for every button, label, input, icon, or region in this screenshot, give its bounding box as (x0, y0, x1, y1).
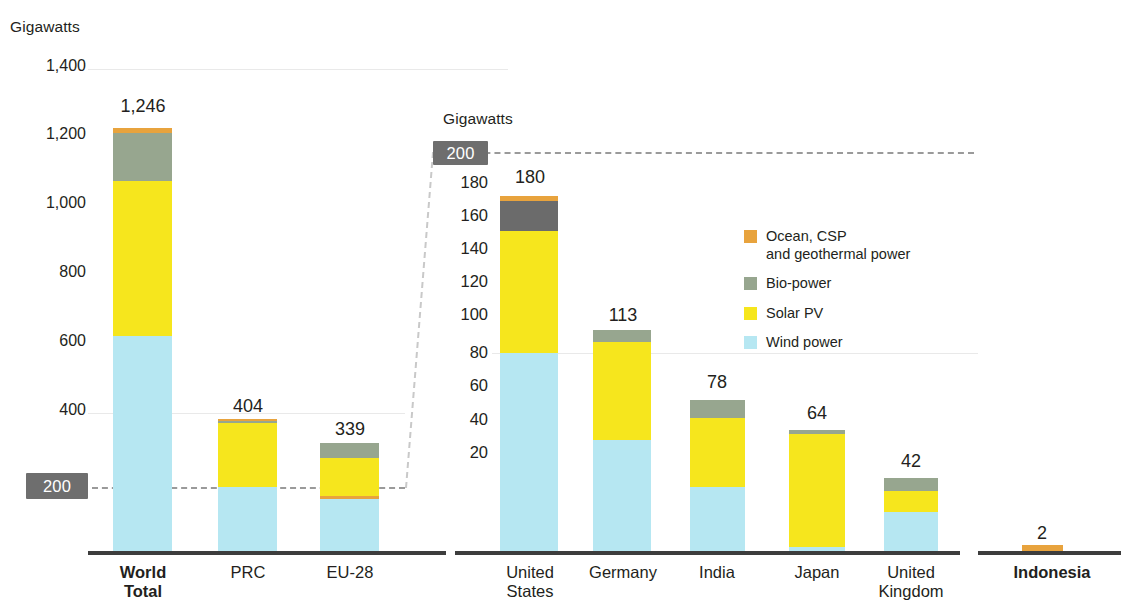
legend-label-line1: Ocean, CSP (766, 228, 847, 244)
bar-value-eu28: 339 (300, 419, 400, 440)
segment-wind-power (113, 336, 172, 553)
segment-bio-power (690, 400, 745, 418)
category-label-line1: Indonesia (992, 563, 1112, 582)
right-axis-baseline (455, 551, 960, 555)
segment-wind-power (884, 512, 938, 553)
legend-item-wind-power: Wind power (744, 334, 944, 352)
legend-label-wind-power: Wind power (766, 334, 843, 352)
category-label-line1: EU-28 (300, 563, 400, 582)
segment-wind-power (593, 440, 651, 553)
category-label-line1: United (861, 563, 961, 582)
right-ytick-140: 140 (428, 239, 488, 258)
category-label-line2: Total (93, 582, 193, 601)
category-label-line1: PRC (198, 563, 298, 582)
inset-axis-baseline (978, 551, 1121, 555)
category-label-united-states: United States (480, 563, 580, 601)
legend-item-ocean-csp-geothermal: Ocean, CSP and geothermal power (744, 228, 944, 263)
segment-wind-power (218, 487, 277, 553)
segment-bio-power (884, 478, 938, 491)
bar-value-world-total: 1,246 (93, 96, 193, 117)
dashline-right-200 (434, 152, 974, 154)
segment-bio-power (320, 443, 379, 458)
bar-value-indonesia: 2 (1012, 523, 1072, 544)
gridline-1400 (88, 69, 508, 70)
chart-canvas: Gigawatts 1,400 1,200 1,000 800 600 400 … (0, 0, 1121, 607)
legend-swatch-solar-icon (744, 307, 757, 320)
legend-label-ocean-csp-geothermal: Ocean, CSP and geothermal power (766, 228, 910, 263)
left-ytick-1400: 1,400 (8, 57, 86, 75)
legend-label-bio-power: Bio-power (766, 275, 831, 293)
right-axis-title: Gigawatts (443, 110, 513, 128)
segment-solar-pv (884, 491, 938, 512)
category-label-eu28: EU-28 (300, 563, 400, 582)
segment-bio-power (113, 133, 172, 181)
category-label-japan: Japan (767, 563, 867, 582)
category-label-line2: States (480, 582, 580, 601)
right-ytick-20: 20 (428, 443, 488, 462)
legend-label-line2: and geothermal power (766, 246, 910, 262)
bar-value-india: 78 (667, 372, 767, 393)
bar-germany (593, 330, 651, 553)
right-ytick-180: 180 (428, 173, 488, 192)
category-label-line1: Japan (767, 563, 867, 582)
legend: Ocean, CSP and geothermal power Bio-powe… (744, 228, 944, 352)
segment-solar-pv (218, 423, 277, 487)
bar-prc (218, 419, 277, 553)
bar-united-kingdom (884, 478, 938, 553)
category-label-indonesia: Indonesia (992, 563, 1112, 582)
segment-solar-pv (320, 458, 379, 496)
category-label-india: India (667, 563, 767, 582)
category-label-line2: Kingdom (861, 582, 961, 601)
left-axis-baseline (88, 551, 446, 555)
segment-solar-pv (500, 231, 558, 353)
bar-value-united-states: 180 (480, 167, 580, 188)
gridline-right-80 (492, 353, 978, 354)
legend-item-bio-power: Bio-power (744, 275, 944, 293)
left-ytick-800: 800 (8, 263, 86, 281)
segment-bio-power (500, 201, 558, 231)
segment-solar-pv (690, 418, 745, 487)
bar-eu28 (320, 443, 379, 553)
bar-japan (789, 430, 845, 553)
bar-value-germany: 113 (573, 305, 673, 326)
segment-bio-power (593, 330, 651, 342)
legend-swatch-bio-icon (744, 277, 757, 290)
segment-solar-pv (113, 181, 172, 336)
right-ytick-120: 120 (428, 272, 488, 291)
category-label-line1: India (667, 563, 767, 582)
right-ytick-100: 100 (428, 305, 488, 324)
segment-solar-pv (789, 434, 845, 547)
category-label-line1: World (93, 563, 193, 582)
right-ytick-160: 160 (428, 206, 488, 225)
category-label-line1: United (480, 563, 580, 582)
bar-value-japan: 64 (767, 403, 867, 424)
left-ytick-200-highlight: 200 (26, 473, 88, 499)
left-ytick-1000: 1,000 (8, 194, 86, 212)
left-axis-title: Gigawatts (10, 18, 80, 36)
segment-wind-power (690, 487, 745, 553)
category-label-line1: Germany (573, 563, 673, 582)
bar-world-total (113, 128, 172, 553)
category-label-world-total: World Total (93, 563, 193, 601)
category-label-germany: Germany (573, 563, 673, 582)
right-ytick-80: 80 (428, 343, 488, 362)
category-label-united-kingdom: United Kingdom (861, 563, 961, 601)
segment-wind-power (320, 499, 379, 553)
left-ytick-400: 400 (8, 401, 86, 419)
legend-label-solar-pv: Solar PV (766, 305, 823, 323)
bar-value-prc: 404 (198, 396, 298, 417)
legend-swatch-wind-icon (744, 336, 757, 349)
segment-solar-pv (593, 342, 651, 440)
legend-swatch-ocean-icon (744, 230, 757, 243)
left-ytick-1200: 1,200 (8, 125, 86, 143)
segment-wind-power (500, 353, 558, 553)
bar-india (690, 400, 745, 553)
right-ytick-40: 40 (428, 410, 488, 429)
bar-value-united-kingdom: 42 (861, 451, 961, 472)
right-ytick-60: 60 (428, 376, 488, 395)
category-label-prc: PRC (198, 563, 298, 582)
bar-united-states (500, 196, 558, 553)
right-ytick-200-highlight: 200 (433, 141, 488, 165)
legend-item-solar-pv: Solar PV (744, 305, 944, 323)
left-ytick-600: 600 (8, 332, 86, 350)
